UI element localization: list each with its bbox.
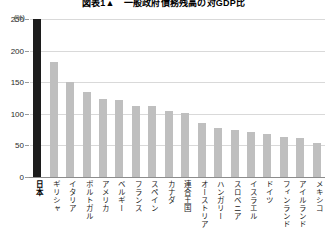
bar-17 bbox=[313, 143, 321, 177]
x-axis-label-9: 連合王国 bbox=[181, 180, 190, 212]
x-axis-label-6: フランス bbox=[132, 180, 141, 212]
gridline-250 bbox=[29, 19, 325, 20]
y-tick-label-200: 200 bbox=[11, 46, 24, 55]
y-tick-label-50: 50 bbox=[15, 141, 24, 150]
x-axis-label-15: フィンランド bbox=[280, 180, 289, 228]
bar-8 bbox=[165, 111, 173, 177]
bar-11 bbox=[214, 128, 222, 177]
plot-area bbox=[29, 19, 325, 177]
bar-3 bbox=[83, 92, 91, 177]
x-axis-label-0: 日本 bbox=[33, 180, 42, 196]
bar-1 bbox=[50, 62, 58, 177]
y-axis-line bbox=[29, 19, 30, 178]
chart-figure: 図表1▲ 一般政府債務残高の対GDP比 (%) 250200150100500 … bbox=[0, 0, 327, 237]
bar-15 bbox=[280, 137, 288, 177]
bar-4 bbox=[99, 99, 107, 177]
x-axis-label-16: アイルランド bbox=[296, 180, 305, 228]
y-tick-label-100: 100 bbox=[11, 109, 24, 118]
x-axis-label-14: ドイツ bbox=[263, 180, 272, 204]
bar-12 bbox=[231, 130, 239, 177]
y-tick-label-250: 250 bbox=[11, 15, 24, 24]
x-axis-label-12: スロベニア bbox=[231, 180, 240, 220]
bar-13 bbox=[247, 132, 255, 177]
x-axis-label-3: ポルトガル bbox=[83, 180, 92, 220]
x-axis-line bbox=[29, 177, 325, 178]
x-axis-label-4: アメリカ bbox=[99, 180, 108, 212]
bar-14 bbox=[263, 134, 271, 177]
gridline-200 bbox=[29, 51, 325, 52]
x-axis-label-2: イタリア bbox=[66, 180, 75, 212]
bar-7 bbox=[148, 106, 156, 177]
bar-9 bbox=[181, 113, 189, 177]
y-tick-label-150: 150 bbox=[11, 78, 24, 87]
x-axis-label-13: イスラエル bbox=[247, 180, 256, 220]
x-axis-label-8: カナダ bbox=[165, 180, 174, 204]
y-axis: (%) 250200150100500 bbox=[0, 0, 29, 237]
x-axis-label-1: ギリシャ bbox=[50, 180, 59, 212]
bar-2 bbox=[66, 82, 74, 177]
chart-title: 図表1▲ 一般政府債務残高の対GDP比 bbox=[0, 0, 327, 9]
bar-5 bbox=[115, 100, 123, 177]
x-axis-label-10: オーストリア bbox=[198, 180, 207, 228]
x-axis-label-17: メキシコ bbox=[313, 180, 322, 212]
bar-10 bbox=[198, 123, 206, 177]
x-axis-label-7: スペイン bbox=[148, 180, 157, 212]
x-axis-label-5: ベルギー bbox=[115, 180, 124, 212]
bar-6 bbox=[132, 106, 140, 177]
x-axis-label-11: ハンガリー bbox=[214, 180, 223, 220]
bar-0 bbox=[33, 19, 41, 177]
y-tick-label-0: 0 bbox=[20, 173, 24, 182]
bar-16 bbox=[296, 138, 304, 177]
